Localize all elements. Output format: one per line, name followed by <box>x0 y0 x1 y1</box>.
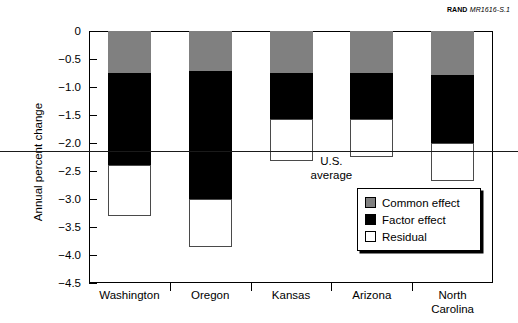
y-axis-tick-label: −0.5 <box>45 53 81 65</box>
y-axis-title: Annual percent change <box>32 57 44 267</box>
x-axis-category-label: North Carolina <box>412 289 493 316</box>
y-axis-tick-label: −3.0 <box>45 193 81 205</box>
y-axis-tick-label: 0 <box>45 25 81 37</box>
legend-swatch-factor-effect <box>365 214 376 225</box>
y-axis-tick-mark <box>89 171 97 172</box>
y-axis-tick-label: −4.5 <box>45 277 81 289</box>
bar-segment-factor-effect <box>270 73 313 119</box>
y-axis-tick-label: −2.0 <box>45 137 81 149</box>
chart-legend: Common effect Factor effect Residual <box>357 188 481 251</box>
y-axis-tick-mark <box>89 59 97 60</box>
source-identifier: RAND MR1616-S.1 <box>447 5 510 14</box>
bar-segment-factor-effect <box>431 75 474 143</box>
bar-segment-residual <box>431 143 474 181</box>
us-average-label: U.S. average <box>291 154 371 182</box>
rand-logo-text: RAND <box>447 6 468 13</box>
x-axis-category-label: Kansas <box>251 289 332 303</box>
y-axis-tick-mark <box>89 255 97 256</box>
y-axis-tick-mark <box>89 115 97 116</box>
bar-group <box>108 31 151 283</box>
y-axis-tick-label: −1.0 <box>45 81 81 93</box>
bar-segment-factor-effect <box>350 73 393 119</box>
document-number: MR1616-S.1 <box>470 6 510 13</box>
bar-segment-common-effect <box>270 31 313 73</box>
x-axis-category-label: Oregon <box>170 289 251 303</box>
bar-segment-common-effect <box>108 31 151 73</box>
bar-segment-common-effect <box>431 31 474 75</box>
x-axis-category-label: Arizona <box>331 289 412 303</box>
legend-label-factor-effect: Factor effect <box>382 214 446 226</box>
x-axis-category-label: Washington <box>89 289 170 303</box>
legend-swatch-common-effect <box>365 197 376 208</box>
bar-group <box>189 31 232 283</box>
y-axis-tick-label: −4.0 <box>45 249 81 261</box>
bar-segment-common-effect <box>189 31 232 71</box>
y-axis-tick-mark <box>89 283 97 284</box>
y-axis-tick-mark <box>89 143 97 144</box>
y-axis-tick-label: −3.5 <box>45 221 81 233</box>
bar-segment-residual <box>108 165 151 215</box>
y-axis-tick-label: −2.5 <box>45 165 81 177</box>
legend-item-common-effect: Common effect <box>365 194 474 211</box>
legend-swatch-residual <box>365 231 376 242</box>
legend-label-common-effect: Common effect <box>382 197 460 209</box>
legend-label-residual: Residual <box>382 231 427 243</box>
y-axis-tick-mark <box>89 87 97 88</box>
y-axis-tick-mark <box>89 199 97 200</box>
y-axis-tick-mark <box>89 227 97 228</box>
bar-segment-common-effect <box>350 31 393 73</box>
y-axis-tick-label: −1.5 <box>45 109 81 121</box>
us-average-reference-line <box>0 151 518 152</box>
legend-item-factor-effect: Factor effect <box>365 211 474 228</box>
bar-segment-residual <box>189 199 232 247</box>
chart-figure: RAND MR1616-S.1 Annual percent change 0−… <box>0 0 518 323</box>
legend-item-residual: Residual <box>365 228 474 245</box>
bar-segment-factor-effect <box>189 71 232 199</box>
